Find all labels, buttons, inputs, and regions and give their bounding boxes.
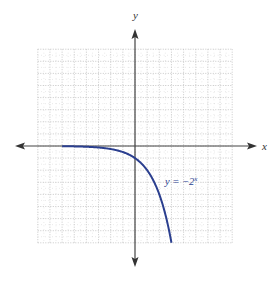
function-graph: y x y = −2x [0, 0, 277, 282]
y-axis-label: y [132, 9, 138, 21]
curve-label-exponent: x [193, 175, 198, 183]
curve-label: y = −2x [164, 175, 198, 187]
y-axis [132, 29, 139, 267]
x-axis [15, 143, 257, 150]
x-axis-label: x [261, 140, 267, 152]
